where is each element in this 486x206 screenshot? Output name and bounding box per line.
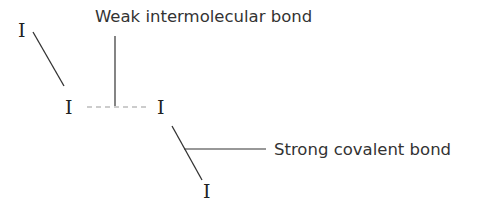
diagram-svg: I I I I Weak intermolecular bond Strong … [0, 0, 486, 206]
covalent-bond-line-1 [33, 32, 64, 86]
covalent-bond-line-2 [172, 126, 202, 180]
strong-covalent-bond-label: Strong covalent bond [274, 140, 451, 159]
weak-intermolecular-bond-label: Weak intermolecular bond [95, 7, 312, 26]
iodine-atom-middle-left: I [65, 96, 73, 118]
iodine-atom-top-left: I [18, 19, 26, 41]
iodine-atom-middle-right: I [157, 96, 165, 118]
iodine-atom-bottom: I [203, 180, 211, 202]
iodine-bonding-diagram: I I I I Weak intermolecular bond Strong … [0, 0, 486, 206]
